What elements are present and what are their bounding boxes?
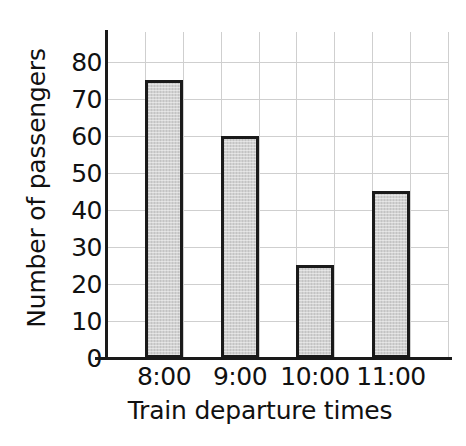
bar xyxy=(221,136,259,358)
x-axis-line xyxy=(95,357,452,360)
y-axis-tick-label: 40 xyxy=(44,195,102,224)
gridline-vertical xyxy=(448,32,449,358)
x-axis-tick-labels: 8:009:0010:0011:00 xyxy=(107,362,448,396)
gridline-horizontal xyxy=(107,62,448,63)
y-axis-tick-label: 20 xyxy=(44,269,102,298)
y-axis-tick-label: 0 xyxy=(44,344,102,373)
y-axis-tick-labels: 01020304050607080 xyxy=(44,32,102,358)
x-axis-title: Train departure times xyxy=(60,396,460,425)
y-axis-tick-label: 60 xyxy=(44,121,102,150)
x-axis-tick-label: 11:00 xyxy=(356,362,426,391)
bar-chart-figure: Number of passengers 01020304050607080 8… xyxy=(0,0,466,446)
bar xyxy=(145,80,183,358)
y-axis-tick-label: 70 xyxy=(44,84,102,113)
bar xyxy=(296,265,334,358)
gridline-vertical xyxy=(183,32,184,358)
gridline-vertical xyxy=(334,32,335,358)
y-axis-tick-label: 30 xyxy=(44,232,102,261)
bar xyxy=(372,191,410,358)
plot-area xyxy=(107,32,448,358)
x-axis-tick-label: 10:00 xyxy=(280,362,350,391)
gridline-vertical xyxy=(410,32,411,358)
y-axis-tick-label: 80 xyxy=(44,47,102,76)
gridline-vertical xyxy=(259,32,260,358)
y-axis-tick-label: 50 xyxy=(44,158,102,187)
y-axis-tick-label: 10 xyxy=(44,306,102,335)
x-axis-tick-label: 8:00 xyxy=(137,362,191,391)
y-axis-line xyxy=(105,30,108,360)
x-axis-tick-label: 9:00 xyxy=(213,362,267,391)
